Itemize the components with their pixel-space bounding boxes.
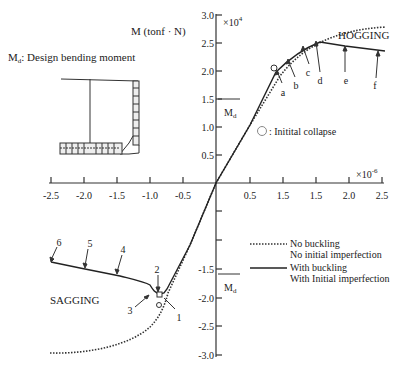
x-tick-label: 0.5 [244, 190, 257, 201]
y-tick-labels: 3.0 2.5 2.0 1.5 1.0 0.5 -1.5 -2.0 -2.5 -… [198, 10, 214, 361]
point-label-6: 6 [57, 237, 62, 248]
point-label-2: 2 [155, 264, 160, 275]
x-tick-label: 1.5 [277, 190, 290, 201]
sagging-label: SAGGING [50, 294, 100, 306]
legend: No buckling No initial imperfection With… [250, 238, 390, 284]
y-tick-label: 2.5 [202, 38, 215, 49]
legend-solid-line1: With buckling [290, 262, 347, 273]
point-label-f: f [373, 80, 377, 91]
svg-text:: Initital collapse: : Initital collapse [269, 126, 337, 137]
x-tick-label: -2.5 [43, 190, 59, 201]
buckling-collapse-marker [157, 292, 162, 297]
point-label-e: e [344, 75, 349, 86]
x-tick-label: 2.0 [343, 190, 356, 201]
point-label-1: 1 [177, 312, 182, 323]
y-tick-label: 0.5 [202, 150, 215, 161]
y-axis [216, 14, 222, 357]
x-tick-label: -0.5 [175, 190, 191, 201]
point-label-b: b [294, 80, 299, 91]
svg-text:Md: Md [224, 282, 237, 295]
legend-solid-line2: With Initial imperfection [290, 273, 390, 284]
design-moment-note: Md: Design bending moment [8, 51, 135, 65]
y-tick-label: 1.5 [202, 94, 215, 105]
x-tick-label: -2.0 [76, 190, 92, 201]
legend-dotted-line2: No initial imperfection [290, 249, 382, 260]
md-marker-negative: Md [218, 274, 240, 295]
y-tick-label: -2.0 [198, 293, 214, 304]
x-tick-label: 1.5 [310, 190, 323, 201]
y-tick-label: -3.0 [198, 350, 214, 361]
x-tick-label: -1.5 [109, 190, 125, 201]
series-no-buckling [50, 27, 386, 353]
point-label-d: d [318, 75, 323, 86]
chart-canvas: -2.5 -2.0 -1.5 -1.0 -0.5 0.5 1.5 1.5 2.0… [0, 0, 410, 372]
y-multiplier: ×104 [223, 15, 243, 28]
initial-collapse-note: : Initital collapse [258, 126, 337, 137]
point-label-c: c [306, 67, 311, 78]
initial-collapse-marker-sag [157, 303, 162, 308]
point-label-3: 3 [128, 305, 133, 316]
legend-dotted-line1: No buckling [290, 238, 340, 249]
hogging-annotations [275, 41, 380, 83]
svg-text:Md: Md [224, 107, 237, 120]
point-label-4: 4 [121, 244, 126, 255]
y-tick-label: -2.5 [198, 321, 214, 332]
y-tick-label: 1.0 [202, 122, 215, 133]
hogging-label: HOGGING [338, 29, 389, 41]
y-tick-label: 2.0 [202, 66, 215, 77]
point-label-5: 5 [88, 238, 93, 249]
hull-section-diagram [60, 79, 139, 154]
initial-collapse-marker-hog [271, 65, 277, 71]
x-tick-label: 2.5 [376, 190, 389, 201]
svg-text:×10-6: ×10-6 [356, 167, 378, 180]
y-axis-label: M (tonf · N) [131, 25, 186, 38]
point-label-a: a [281, 87, 286, 98]
x-multiplier: ×10-6 [356, 167, 378, 180]
x-tick-label: -1.0 [142, 190, 158, 201]
y-tick-label: -1.5 [198, 264, 214, 275]
y-tick-label: 3.0 [202, 10, 215, 21]
md-marker-positive: Md [218, 99, 240, 120]
